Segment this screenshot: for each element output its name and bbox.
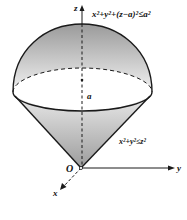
sphere-inequality-label: x²+y²+(z−a)²≤a² (92, 10, 150, 19)
origin-point (79, 166, 82, 169)
cone-inequality-label: x²+y²≤z² (119, 138, 146, 146)
y-axis-label: y (177, 164, 181, 173)
x-axis-label: x (53, 189, 58, 198)
z-arrow-icon (80, 5, 85, 11)
center-point (81, 79, 84, 82)
center-label: a (87, 92, 92, 101)
y-arrow-icon (168, 166, 175, 171)
origin-label: O (66, 164, 73, 174)
solid-figure (0, 0, 187, 220)
z-axis-label: z (74, 4, 78, 13)
